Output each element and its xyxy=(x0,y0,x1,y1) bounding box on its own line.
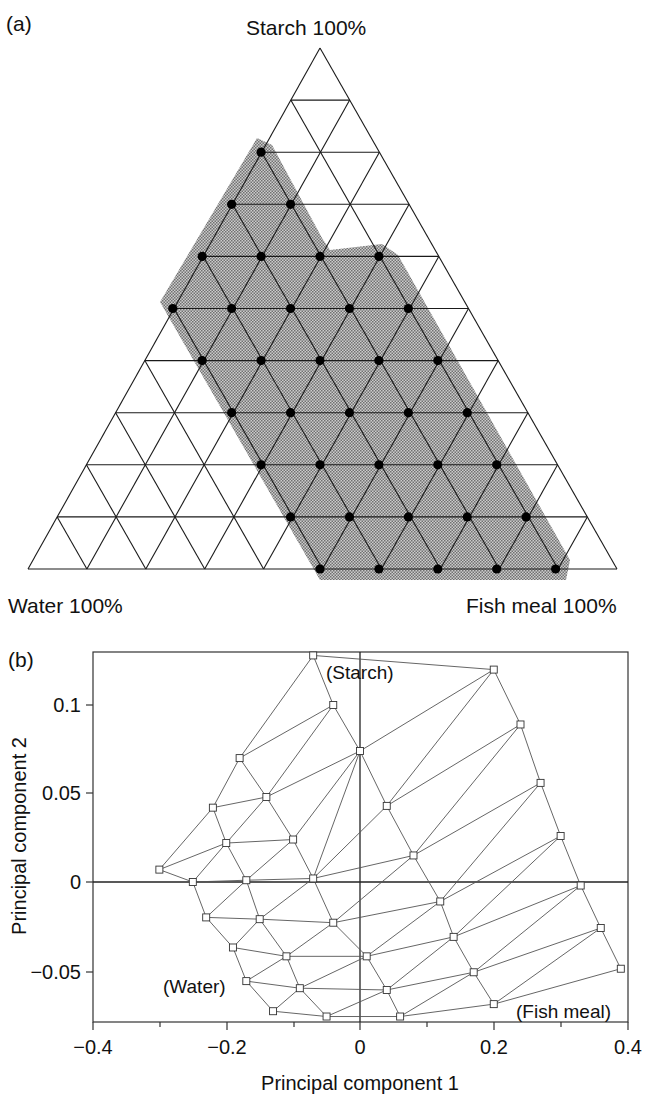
mesh-line xyxy=(286,956,299,988)
data-point-marker xyxy=(490,666,497,673)
data-point-marker xyxy=(263,794,270,801)
mesh-line xyxy=(313,855,413,878)
design-point xyxy=(227,200,236,209)
mesh-line xyxy=(246,840,293,881)
mesh-line xyxy=(494,670,521,725)
grid-line xyxy=(558,517,587,569)
mesh-line xyxy=(474,886,581,973)
design-point xyxy=(227,304,236,313)
mesh-line xyxy=(333,705,360,751)
mesh-line xyxy=(454,836,561,937)
x-axis-ticks xyxy=(93,1022,628,1030)
mesh-line xyxy=(246,956,286,981)
data-point-marker xyxy=(330,702,337,709)
design-point xyxy=(404,512,413,521)
mesh-line xyxy=(367,956,387,990)
mesh-line xyxy=(561,836,581,886)
y-tick-label: 0.1 xyxy=(53,694,81,716)
data-point-marker xyxy=(203,914,210,921)
design-point xyxy=(286,512,295,521)
mesh-line xyxy=(266,705,333,797)
design-point xyxy=(345,408,354,417)
data-point-marker xyxy=(577,882,584,889)
data-point-marker xyxy=(189,879,196,886)
mesh-line xyxy=(266,797,293,839)
mesh-line xyxy=(440,783,540,902)
x-tick-label: 0 xyxy=(354,1036,365,1058)
design-point xyxy=(198,356,207,365)
mesh-line xyxy=(494,928,601,1004)
data-point-marker xyxy=(256,916,263,923)
figure-canvas: −0.4 −0.2 0 0.2 0.4 0.1 0.05 0 −0.05 Pri… xyxy=(0,0,649,1101)
mesh-line xyxy=(400,1004,494,1016)
design-point xyxy=(257,252,266,261)
design-point xyxy=(404,408,413,417)
data-point-marker xyxy=(617,965,624,972)
design-point xyxy=(463,408,472,417)
mesh-line xyxy=(213,758,240,808)
mesh-line xyxy=(226,840,293,844)
data-point-marker xyxy=(357,748,364,755)
mesh-line xyxy=(233,919,260,947)
data-point-marker xyxy=(310,652,317,659)
mesh-line xyxy=(313,806,387,879)
x-axis-title: Principal component 1 xyxy=(261,1072,459,1094)
data-point-marker xyxy=(383,802,390,809)
mesh-line xyxy=(260,919,334,923)
grid-line xyxy=(116,413,205,569)
mesh-line xyxy=(300,988,387,990)
mesh-line xyxy=(213,808,226,843)
annotation-starch: (Starch) xyxy=(326,662,394,683)
mesh-line xyxy=(414,855,441,901)
mesh-line xyxy=(246,880,259,919)
data-point-marker xyxy=(537,779,544,786)
design-point xyxy=(463,512,472,521)
x-tick-label: −0.2 xyxy=(207,1036,246,1058)
design-point xyxy=(522,512,531,521)
mesh-line xyxy=(159,843,226,870)
annotation-water: (Water) xyxy=(163,976,226,997)
mesh-line xyxy=(414,724,521,855)
mesh-line xyxy=(494,969,621,1004)
annotation-fish-meal: (Fish meal) xyxy=(516,1001,611,1022)
data-point-marker xyxy=(223,840,230,847)
design-point xyxy=(374,252,383,261)
design-point xyxy=(286,304,295,313)
mesh-line xyxy=(206,880,246,917)
mesh-line xyxy=(414,783,541,856)
ternary-diagram xyxy=(28,48,617,580)
design-point xyxy=(257,460,266,469)
design-point xyxy=(374,564,383,573)
mesh-line xyxy=(233,947,246,981)
pca-plot: −0.4 −0.2 0 0.2 0.4 0.1 0.05 0 −0.05 Pri… xyxy=(8,652,642,1094)
mesh-line xyxy=(293,840,313,879)
mesh-line xyxy=(454,886,581,937)
design-point xyxy=(168,304,177,313)
data-point-marker xyxy=(517,721,524,728)
mesh-line xyxy=(260,878,314,919)
mesh-line xyxy=(273,988,300,1011)
mesh-line xyxy=(240,655,314,758)
design-point xyxy=(404,304,413,313)
mesh-line xyxy=(387,937,454,990)
mesh-line xyxy=(333,923,366,957)
data-point-marker xyxy=(243,877,250,884)
mesh-line xyxy=(327,990,387,1017)
design-point xyxy=(374,356,383,365)
data-point-marker xyxy=(410,852,417,859)
design-point xyxy=(315,252,324,261)
design-point xyxy=(492,460,501,469)
data-point-marker xyxy=(310,875,317,882)
mesh-line xyxy=(273,1011,327,1016)
mesh-line xyxy=(286,923,333,957)
mesh-line xyxy=(313,878,333,922)
data-point-marker xyxy=(397,1013,404,1020)
mesh-line xyxy=(601,928,621,969)
mesh-line xyxy=(206,917,260,919)
mesh-line xyxy=(300,988,327,1016)
data-point-marker xyxy=(229,944,236,951)
mesh-line xyxy=(159,808,213,870)
data-point-marker xyxy=(156,866,163,873)
design-point xyxy=(345,304,354,313)
x-tick-label: 0.4 xyxy=(614,1036,642,1058)
